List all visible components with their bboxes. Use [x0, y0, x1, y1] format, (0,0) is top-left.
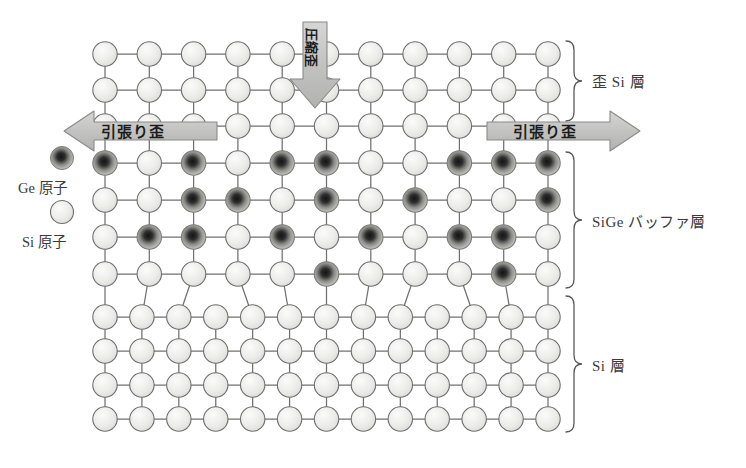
- si-atom: [226, 78, 250, 102]
- si-atom: [359, 151, 383, 175]
- si-atom: [492, 188, 516, 212]
- ge-atom: [270, 151, 294, 175]
- si-atom: [137, 188, 161, 212]
- si-atom: [536, 262, 560, 286]
- si-atom: [130, 373, 154, 397]
- si-atom: [403, 42, 427, 66]
- si-atom: [240, 305, 264, 329]
- ge-atom: [492, 225, 516, 249]
- si-atom: [388, 305, 412, 329]
- ge-atom: [403, 188, 427, 212]
- si-atom: [93, 188, 117, 212]
- si-atom: [181, 78, 205, 102]
- si-atom: [403, 78, 427, 102]
- si-atom: [536, 373, 560, 397]
- si-atom: [447, 42, 471, 66]
- si-atom: [277, 407, 301, 431]
- si-atom: [130, 305, 154, 329]
- si-atom: [462, 305, 486, 329]
- ge-atom: [181, 188, 205, 212]
- ge-atom: [314, 151, 338, 175]
- si-atom: [277, 339, 301, 363]
- si-atom: [270, 262, 294, 286]
- legend-si-atom-icon: [51, 201, 74, 224]
- si-atom: [204, 373, 228, 397]
- label-compressive-strain: 圧縮歪: [303, 28, 322, 67]
- si-atom: [240, 339, 264, 363]
- si-atom: [388, 339, 412, 363]
- si-atom: [351, 305, 375, 329]
- si-atom: [137, 42, 161, 66]
- ge-atom: [492, 151, 516, 175]
- ge-atom: [226, 188, 250, 212]
- si-atom: [403, 225, 427, 249]
- si-atom: [425, 407, 449, 431]
- si-atom: [351, 407, 375, 431]
- label-right-tensile-strain: 引張り歪: [513, 120, 577, 141]
- layer-brackets: [566, 41, 582, 432]
- ge-atom: [447, 151, 471, 175]
- si-atom: [447, 78, 471, 102]
- si-atom: [270, 114, 294, 138]
- si-atom: [447, 188, 471, 212]
- si-atom: [536, 305, 560, 329]
- si-atom: [167, 373, 191, 397]
- si-atom: [93, 262, 117, 286]
- si-atom: [536, 42, 560, 66]
- si-atom: [536, 407, 560, 431]
- legend-label-si-atom: Si 原子: [22, 230, 66, 251]
- ge-atom: [314, 262, 338, 286]
- si-atom: [462, 373, 486, 397]
- si-atom: [499, 339, 523, 363]
- si-atom: [359, 262, 383, 286]
- ge-atom: [359, 225, 383, 249]
- label-left-tensile-strain: 引張り歪: [101, 120, 165, 141]
- si-atom: [226, 225, 250, 249]
- si-atom: [93, 42, 117, 66]
- label-sige-buffer-layer: SiGe バッファ層: [592, 210, 706, 231]
- ge-atom: [447, 225, 471, 249]
- si-atom: [447, 114, 471, 138]
- si-atom: [130, 339, 154, 363]
- si-atom: [226, 151, 250, 175]
- ge-atom: [93, 151, 117, 175]
- ge-atom: [181, 225, 205, 249]
- si-atom: [403, 114, 427, 138]
- si-atom: [204, 305, 228, 329]
- si-atom: [93, 225, 117, 249]
- si-atom: [359, 42, 383, 66]
- si-atom: [351, 373, 375, 397]
- ge-atom: [492, 262, 516, 286]
- si-atom: [536, 78, 560, 102]
- si-atom: [359, 188, 383, 212]
- si-atom: [167, 305, 191, 329]
- si-atom: [403, 151, 427, 175]
- si-atom: [314, 407, 338, 431]
- si-atom: [137, 78, 161, 102]
- legend-ge-atom-icon: [51, 147, 74, 170]
- si-atom: [137, 262, 161, 286]
- legend-label-ge-atom: Ge 原子: [18, 176, 67, 197]
- si-atom: [499, 305, 523, 329]
- si-atom: [388, 373, 412, 397]
- si-atom: [425, 305, 449, 329]
- si-atom: [314, 114, 338, 138]
- ge-atom: [270, 225, 294, 249]
- label-strained-si-layer: 歪 Si 層: [592, 70, 645, 91]
- si-atom: [536, 339, 560, 363]
- si-atom: [240, 373, 264, 397]
- si-atom: [93, 407, 117, 431]
- si-atom: [204, 407, 228, 431]
- label-si-substrate-layer: Si 層: [592, 354, 625, 375]
- si-atom: [359, 114, 383, 138]
- si-atom: [499, 373, 523, 397]
- si-atom: [270, 188, 294, 212]
- si-atom: [130, 407, 154, 431]
- ge-atom: [536, 151, 560, 175]
- si-atom: [462, 407, 486, 431]
- si-atom: [499, 407, 523, 431]
- si-atom: [314, 305, 338, 329]
- si-atom: [536, 225, 560, 249]
- si-atom: [226, 262, 250, 286]
- si-atom: [462, 339, 486, 363]
